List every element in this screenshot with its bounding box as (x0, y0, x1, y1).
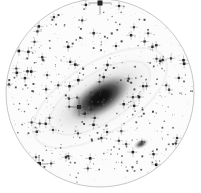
astronomy-plate-image (0, 0, 201, 193)
sky-canvas (0, 0, 201, 193)
